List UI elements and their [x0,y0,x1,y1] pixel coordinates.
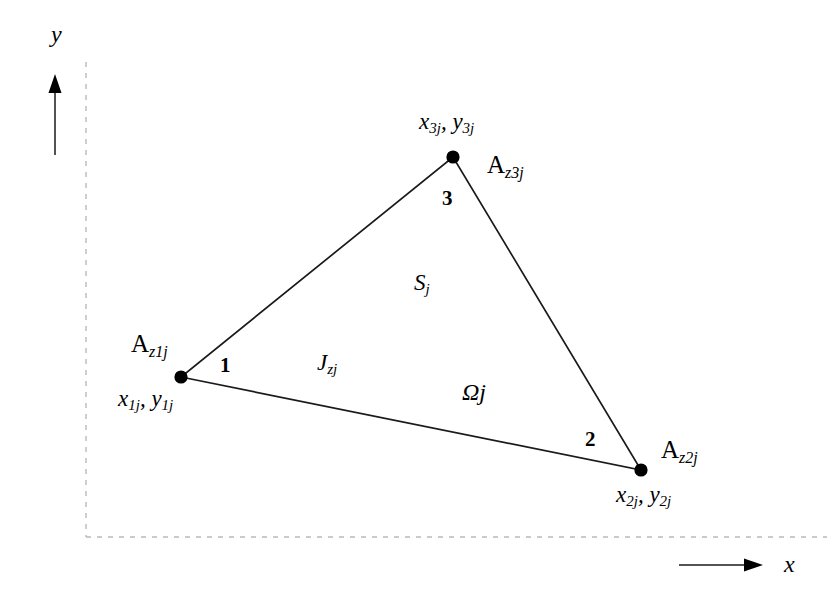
diagram-graphics [0,0,827,603]
figure-canvas: y x x3j, y3j Az3j 3 Az1j x1j, y1j 1 2 Az… [0,0,827,603]
x-axis-arrow [679,559,763,572]
vertex-3-potential-label: Az3j [487,152,524,181]
vertex-2-number-label: 2 [585,429,596,450]
vertex-1-number-label: 1 [220,355,231,376]
vertex-1-coordinates-label: x1j, y1j [118,387,173,413]
current-density-label: Jzj [317,351,337,377]
x-axis-label: x [784,552,795,576]
vertex-node-3 [446,150,459,163]
vertex-1-potential-label: Az1j [131,331,168,360]
surface-area-label: Sj [414,271,430,297]
triangle-element [181,157,641,470]
vertex-3-number-label: 3 [442,188,453,209]
vertex-2-coordinates-label: x2j, y2j [616,483,671,509]
domain-region-label: Ωj [462,380,486,404]
vertex-3-coordinates-label: x3j, y3j [419,110,474,136]
vertex-node-2 [634,463,647,476]
vertex-node-1 [174,370,187,383]
vertex-2-potential-label: Az2j [661,437,698,466]
y-axis-arrow [49,74,62,155]
y-axis-label: y [51,22,62,46]
